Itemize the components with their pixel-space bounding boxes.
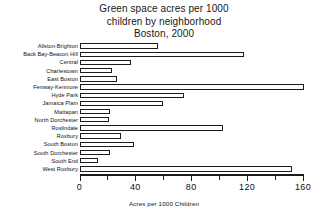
bar (80, 117, 109, 122)
chart-title-line-3: Boston, 2000 (0, 28, 328, 41)
bar-rows: Allston-BrightonBack Bay-Beacon HillCent… (0, 42, 328, 173)
bar-category-label: Mattapan (0, 109, 78, 115)
bar-track (80, 58, 328, 66)
bar-track (80, 132, 328, 140)
x-tick-label: 0 (77, 182, 82, 192)
bar-row: Roslindale (0, 124, 328, 132)
bar-category-label: South End (0, 158, 78, 164)
x-minor-tick (107, 176, 108, 180)
x-axis: 04080120160 Acres per 1000 Children (0, 174, 328, 222)
x-tick (303, 176, 304, 181)
bar-row: Roxbury (0, 132, 328, 140)
bar-row: West Roxbury (0, 165, 328, 173)
chart-title: Green space acres per 1000 children by n… (0, 3, 328, 41)
bar-track (80, 165, 328, 173)
bar-track (80, 99, 328, 107)
bar-category-label: West Roxbury (0, 166, 78, 172)
bar-category-label: South Boston (0, 141, 78, 147)
bar-track (80, 67, 328, 75)
bar-row: South End (0, 157, 328, 165)
x-tick-label: 160 (295, 182, 311, 192)
bar (80, 109, 111, 114)
bar (80, 68, 112, 73)
bar (80, 150, 111, 155)
bar-category-label: Allston-Brighton (0, 43, 78, 49)
bar (80, 166, 292, 171)
bar (80, 142, 134, 147)
bar-row: Mattapan (0, 108, 328, 116)
x-tick (191, 176, 192, 181)
bar-row: South Boston (0, 140, 328, 148)
bar-track (80, 42, 328, 50)
bar-category-label: Charlestown (0, 68, 78, 74)
x-minor-tick (163, 176, 164, 180)
chart-title-line-2: children by neighborhood (0, 16, 328, 29)
bar-track (80, 116, 328, 124)
x-tick-label: 80 (186, 182, 197, 192)
bar-track (80, 124, 328, 132)
x-minor-tick (219, 176, 220, 180)
bar-track (80, 83, 328, 91)
bar-category-label: Roxbury (0, 133, 78, 139)
bar-category-label: Hyde Park (0, 92, 78, 98)
bar-track (80, 148, 328, 156)
bar (80, 76, 118, 81)
bar-category-label: North Dorchester (0, 117, 78, 123)
bar-row: South Dorchester (0, 148, 328, 156)
bar-category-label: East Boston (0, 76, 78, 82)
bar-track (80, 108, 328, 116)
bar-row: East Boston (0, 75, 328, 83)
bar (80, 43, 158, 48)
bar-track (80, 140, 328, 148)
bar-category-label: Jamaica Plain (0, 100, 78, 106)
bar (80, 133, 122, 138)
bar-row: Charlestown (0, 67, 328, 75)
x-tick (80, 176, 81, 181)
bar-category-label: South Dorchester (0, 150, 78, 156)
chart-title-line-1: Green space acres per 1000 (0, 3, 328, 16)
bar-category-label: Roslindale (0, 125, 78, 131)
x-tick (247, 176, 248, 181)
bar (80, 52, 245, 57)
x-tick (135, 176, 136, 181)
bar-track (80, 50, 328, 58)
x-axis-title: Acres per 1000 Children (0, 200, 328, 207)
bar-category-label: Back Bay-Beacon Hill (0, 51, 78, 57)
bar (80, 101, 164, 106)
bar-row: Fenway-Kenmore (0, 83, 328, 91)
x-tick-label: 40 (130, 182, 141, 192)
bar (80, 158, 98, 163)
bar-row: Jamaica Plain (0, 99, 328, 107)
bar-row: Central (0, 58, 328, 66)
bar (80, 84, 305, 89)
x-minor-tick (275, 176, 276, 180)
bar-category-label: Central (0, 59, 78, 65)
bar-row: Back Bay-Beacon Hill (0, 50, 328, 58)
chart-container: Green space acres per 1000 children by n… (0, 0, 328, 222)
bar (80, 60, 132, 65)
bar-track (80, 91, 328, 99)
bar-row: Hyde Park (0, 91, 328, 99)
x-tick-label: 120 (239, 182, 255, 192)
bar-row: Allston-Brighton (0, 42, 328, 50)
bar-track (80, 75, 328, 83)
plot-area: Allston-BrightonBack Bay-Beacon HillCent… (0, 42, 328, 174)
bar-category-label: Fenway-Kenmore (0, 84, 78, 90)
bar (80, 93, 185, 98)
bar-row: North Dorchester (0, 116, 328, 124)
bar (80, 125, 224, 130)
bar-track (80, 157, 328, 165)
